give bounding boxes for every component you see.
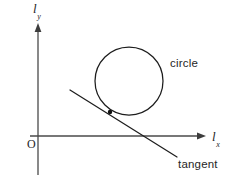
tangent-label: tangent [178,159,218,171]
geometry-figure: ly lx O circle tangent [0,0,231,180]
x-axis [30,133,206,140]
y-axis-label: ly [33,2,41,19]
y-axis [35,23,42,175]
x-axis-label-subscript: x [216,140,220,149]
tangent-line [70,90,177,157]
x-axis-arrowhead-icon [197,133,206,140]
tangency-point-marker [108,110,111,113]
circle-shape [95,47,163,115]
y-axis-arrowhead-icon [35,23,42,32]
origin-label: O [27,138,36,150]
x-axis-label: lx [212,130,220,147]
figure-canvas [0,0,231,180]
circle-label: circle [170,58,198,70]
y-axis-label-subscript: y [37,12,41,21]
